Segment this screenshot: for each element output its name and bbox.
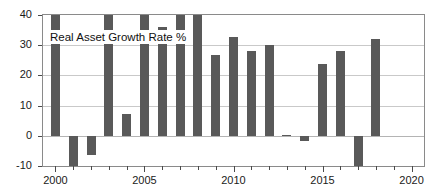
- bar: [282, 135, 291, 136]
- bar: [354, 136, 363, 166]
- chart-title: Real Asset Growth Rate %: [48, 30, 188, 44]
- bar: [193, 15, 202, 136]
- x-tick-label: 2020: [392, 175, 432, 186]
- bar: [247, 51, 256, 136]
- bar: [318, 64, 327, 136]
- x-tick-label: 2015: [303, 175, 343, 186]
- x-tick-label: 2010: [214, 175, 254, 186]
- y-tick-label: -10: [0, 160, 32, 171]
- bar: [265, 45, 274, 136]
- y-tick-label: 0: [0, 130, 32, 141]
- bar: [229, 37, 238, 135]
- x-tick-label: 2000: [35, 175, 75, 186]
- bar: [87, 136, 96, 156]
- y-tick-label: 30: [0, 39, 32, 50]
- bar: [211, 55, 220, 136]
- y-tick-label: 10: [0, 100, 32, 111]
- bar: [122, 114, 131, 136]
- zero-line: [43, 136, 424, 137]
- bar: [300, 136, 309, 141]
- bar: [69, 136, 78, 166]
- chart-figure: -1001020304020002005201020152020 Real As…: [0, 0, 446, 196]
- bar: [336, 51, 345, 136]
- y-tick-label: 20: [0, 69, 32, 80]
- x-tick-label: 2005: [124, 175, 164, 186]
- y-tick-label: 40: [0, 9, 32, 20]
- bar: [371, 39, 380, 136]
